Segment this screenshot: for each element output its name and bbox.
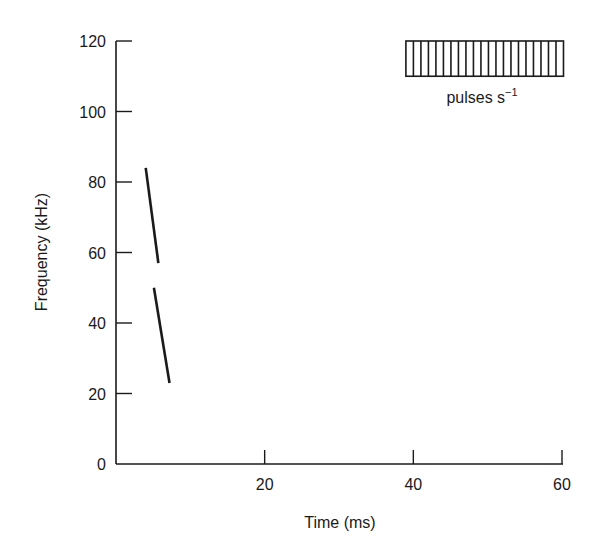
x-axis-title: Time (ms) xyxy=(304,514,375,531)
fm-sweep-series xyxy=(146,168,170,383)
pulse-block-frame xyxy=(406,41,564,76)
pulse-train-block xyxy=(406,41,564,76)
x-axis: 204060 xyxy=(116,450,571,493)
x-tick-label: 60 xyxy=(553,476,571,493)
y-tick-label: 80 xyxy=(88,174,106,191)
sweep-segment xyxy=(154,288,170,383)
y-axis-title: Frequency (kHz) xyxy=(33,193,50,311)
y-tick-label: 60 xyxy=(88,245,106,262)
y-tick-label: 0 xyxy=(97,456,106,473)
pulse-legend-text: pulses s xyxy=(446,89,505,106)
x-tick-label: 40 xyxy=(404,476,422,493)
y-tick-label: 120 xyxy=(79,33,106,50)
sweep-segment xyxy=(146,168,159,263)
x-tick-label: 20 xyxy=(256,476,274,493)
y-tick-label: 100 xyxy=(79,104,106,121)
pulse-legend-label: pulses s−1 xyxy=(446,86,517,106)
y-tick-label: 40 xyxy=(88,315,106,332)
y-axis: 020406080100120 xyxy=(79,33,132,473)
pulse-legend-superscript: −1 xyxy=(505,86,518,98)
frequency-time-chart: 020406080100120 204060 Time (ms) Frequen… xyxy=(0,0,598,556)
y-tick-label: 20 xyxy=(88,386,106,403)
